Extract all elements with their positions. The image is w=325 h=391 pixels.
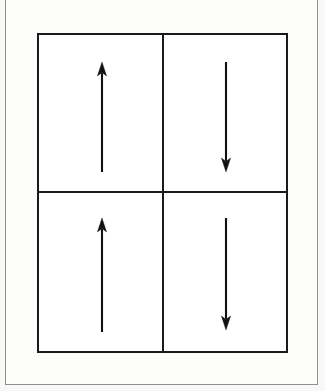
up-arrow-icon [90, 213, 114, 337]
panel-bottom-left-label: up-arrow [39, 193, 40, 194]
panel-bottom-right[interactable]: down-arrow [164, 193, 286, 351]
panel-bottom-right-label: down-arrow [164, 193, 165, 194]
panel-top-right-label: down-arrow [164, 35, 165, 36]
panel-top-left[interactable]: up-arrow [39, 35, 164, 193]
down-arrow-icon [214, 213, 238, 337]
four-panel-figure: up-arrow down-arrow up-arrow down-arro [37, 33, 288, 353]
panel-top-left-label: up-arrow [39, 35, 40, 36]
panel-bottom-left[interactable]: up-arrow [39, 193, 164, 351]
down-arrow-icon [214, 57, 238, 177]
up-arrow-icon [90, 57, 114, 177]
figure-page: up-arrow down-arrow up-arrow down-arro [0, 0, 325, 391]
panel-top-right[interactable]: down-arrow [164, 35, 286, 193]
